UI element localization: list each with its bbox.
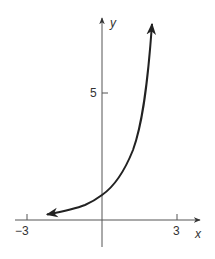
y-axis-label: y — [109, 16, 117, 30]
exponential-curve — [47, 24, 152, 215]
exponential-graph: −3 3 5 x y — [0, 0, 215, 259]
x-axis-label: x — [194, 227, 202, 241]
y-tick-label-5: 5 — [90, 86, 97, 100]
x-tick-label-3: 3 — [173, 224, 180, 238]
x-tick-label-neg3: −3 — [15, 224, 29, 238]
